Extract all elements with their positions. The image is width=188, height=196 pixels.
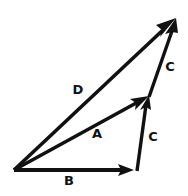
vector-diagram-canvas: B C C A D bbox=[0, 0, 188, 196]
vector-c-lower-label: C bbox=[148, 129, 158, 144]
diagram-background bbox=[0, 0, 188, 196]
vector-c-upper-label: C bbox=[165, 59, 175, 74]
vector-a-label: A bbox=[92, 126, 102, 141]
vector-diagram-figure: B C C A D bbox=[0, 0, 188, 196]
vector-b-label: B bbox=[64, 173, 74, 188]
vector-d-label: D bbox=[73, 82, 84, 97]
